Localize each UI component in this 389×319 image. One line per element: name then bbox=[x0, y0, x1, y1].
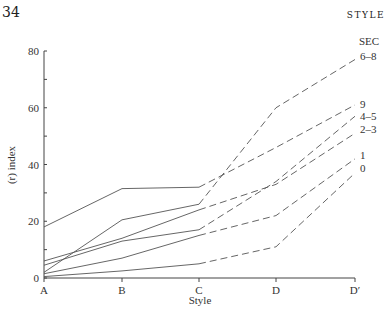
y-axis-label: (r) index bbox=[5, 145, 18, 184]
series-line-solid bbox=[44, 187, 199, 227]
series-line-solid bbox=[44, 230, 199, 265]
series-line-dashed bbox=[199, 173, 355, 264]
x-axis-label: Style bbox=[189, 294, 212, 306]
axes: 020406080ABCDD′ bbox=[28, 45, 360, 296]
legend-title: SEC bbox=[359, 35, 379, 47]
series-label: 1 bbox=[360, 149, 366, 161]
x-tick-label: B bbox=[118, 284, 125, 296]
series-label: 4–5 bbox=[360, 110, 377, 122]
series-lines bbox=[44, 60, 355, 277]
x-tick-label: D′ bbox=[350, 284, 360, 296]
series-line-solid bbox=[44, 210, 199, 261]
x-tick-label: D bbox=[272, 284, 280, 296]
y-tick-label: 40 bbox=[28, 159, 40, 171]
y-tick-label: 0 bbox=[34, 272, 40, 284]
series-line-dashed bbox=[199, 105, 355, 187]
series-line-dashed bbox=[199, 159, 355, 236]
series-line-dashed bbox=[199, 60, 355, 205]
series-label: 2–3 bbox=[360, 123, 377, 135]
y-tick-label: 80 bbox=[28, 45, 40, 57]
series-label: 0 bbox=[360, 162, 366, 174]
y-tick-label: 20 bbox=[28, 215, 40, 227]
y-tick-label: 60 bbox=[28, 102, 40, 114]
line-chart: 020406080ABCDD′ 6–894–52–310 (r) index S… bbox=[0, 0, 389, 319]
series-line-dashed bbox=[199, 133, 355, 210]
series-label: 6–8 bbox=[360, 50, 377, 62]
series-line-solid bbox=[44, 264, 199, 277]
series-label: 9 bbox=[360, 98, 366, 110]
series-labels: 6–894–52–310 bbox=[360, 50, 377, 174]
x-tick-label: A bbox=[40, 284, 48, 296]
series-line-dashed bbox=[199, 116, 355, 230]
